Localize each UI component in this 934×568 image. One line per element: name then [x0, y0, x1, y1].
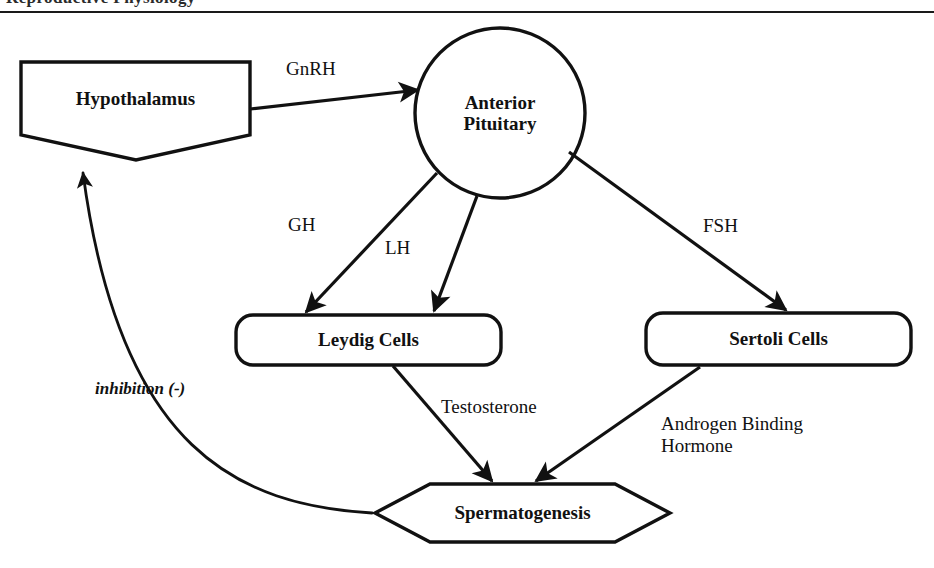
edge-lh-label: LH	[385, 237, 410, 259]
node-anterior-pituitary-shape[interactable]	[415, 28, 585, 198]
edge-gnrh[interactable]	[250, 90, 418, 109]
hormonal-control-flowchart	[0, 0, 934, 568]
diagram-page: Reproductive Physiology	[0, 0, 934, 568]
node-sertoli-cells-shape[interactable]	[646, 313, 911, 365]
edge-androgen-binding-hormone-label-line2: Hormone	[661, 435, 803, 457]
edge-lh[interactable]	[434, 196, 477, 311]
node-hypothalamus-shape[interactable]	[21, 62, 250, 160]
node-spermatogenesis-shape[interactable]	[375, 484, 670, 542]
edge-inhibition-label: inhibition (-)	[95, 379, 185, 399]
edge-testosterone-label: Testosterone	[441, 396, 537, 418]
edge-gh[interactable]	[306, 173, 437, 312]
node-leydig-cells-shape[interactable]	[236, 315, 501, 365]
edge-fsh[interactable]	[569, 152, 786, 310]
edge-androgen-binding-hormone-label: Androgen Binding Hormone	[661, 413, 803, 457]
edge-androgen-binding-hormone-label-line1: Androgen Binding	[661, 413, 803, 435]
edge-fsh-label: FSH	[703, 215, 738, 237]
edge-gh-label: GH	[288, 214, 315, 236]
edge-testosterone[interactable]	[393, 366, 492, 481]
edge-gnrh-label: GnRH	[286, 58, 336, 80]
